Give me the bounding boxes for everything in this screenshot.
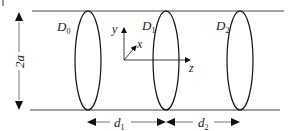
disc2-label: D2: [215, 18, 229, 35]
y-axis-label: y: [111, 22, 118, 36]
disc1-label: D1: [141, 18, 155, 35]
down-arrow-icon: [15, 101, 23, 110]
z-axis-label: z: [188, 61, 194, 75]
x-axis-label: x: [136, 37, 143, 51]
disc-d1: [153, 11, 179, 110]
waveguide-diagram: 2a D0 D1 D2 y x z d1 d2: [0, 0, 293, 131]
left-arrow-icon: [87, 118, 96, 126]
disc0-label: D0: [56, 19, 70, 36]
x-axis-arrow-icon: [124, 46, 136, 60]
d2-label: d2: [198, 115, 209, 131]
d1-dimension: d1: [87, 115, 166, 131]
left-arrow-icon: [166, 118, 175, 126]
disc-d0: [75, 11, 101, 110]
height-dimension: 2a: [12, 12, 27, 110]
d2-dimension: d2: [166, 115, 240, 131]
disc-d2: [227, 11, 253, 110]
d1-label: d1: [114, 115, 125, 131]
height-label: 2a: [12, 55, 27, 69]
right-arrow-icon: [157, 118, 166, 126]
up-arrow-icon: [15, 12, 23, 21]
right-arrow-icon: [231, 118, 240, 126]
